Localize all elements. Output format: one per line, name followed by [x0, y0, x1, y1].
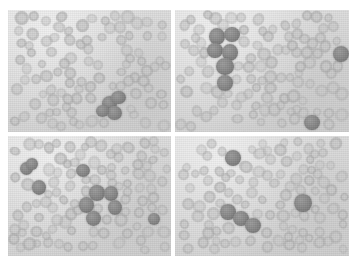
dark-stained-cell	[104, 186, 119, 201]
dark-stained-cell	[111, 91, 125, 105]
dark-stained-cell	[209, 28, 226, 45]
red-blood-cell	[31, 226, 43, 238]
micrograph-panel-bottom-left[interactable]	[8, 136, 171, 256]
micrograph-panel-bottom-right[interactable]	[175, 136, 349, 256]
dark-stained-cell	[96, 105, 109, 117]
red-blood-cell	[40, 196, 52, 208]
red-blood-cell	[142, 161, 152, 171]
micrograph-panel-top-right[interactable]	[175, 10, 349, 132]
red-blood-cell	[46, 46, 57, 57]
red-blood-cell	[162, 164, 171, 174]
dark-stained-cell	[107, 106, 122, 120]
dark-stained-cell	[76, 164, 90, 177]
dark-stained-cell	[108, 200, 123, 215]
red-blood-cell	[246, 73, 256, 84]
dark-stained-cell	[207, 43, 222, 58]
red-blood-cell	[325, 184, 337, 196]
dark-stained-cell	[294, 194, 311, 212]
dark-stained-cell	[245, 218, 261, 233]
red-blood-cell	[145, 96, 158, 109]
dark-stained-cell	[86, 211, 101, 226]
dark-stained-cell	[148, 213, 160, 225]
dark-stained-cell	[32, 180, 47, 195]
micrograph-montage	[8, 10, 349, 256]
red-blood-cell	[22, 63, 32, 75]
dark-stained-cell	[217, 75, 233, 91]
dark-stained-cell	[304, 115, 319, 130]
red-blood-cell	[33, 139, 44, 150]
dark-stained-cell	[216, 58, 233, 74]
micrograph-panel-top-left[interactable]	[8, 10, 171, 132]
figure-root	[0, 0, 357, 273]
dark-stained-cell	[333, 46, 349, 62]
